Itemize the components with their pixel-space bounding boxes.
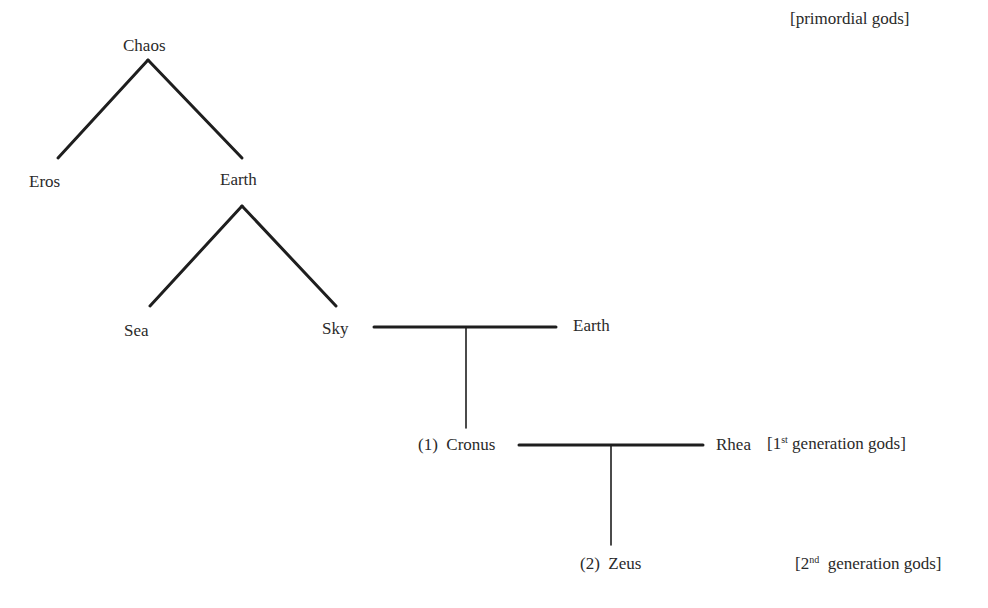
node-cronus: (1) Cronus xyxy=(418,435,495,455)
zeus-name: Zeus xyxy=(608,554,641,573)
node-rhea: Rhea xyxy=(716,435,751,455)
edge-chaos-eros xyxy=(58,60,148,158)
second-gen-sup: nd xyxy=(809,554,819,565)
connector-lines xyxy=(0,0,988,608)
node-sky: Sky xyxy=(322,319,348,339)
annotation-second-generation: [2nd generation gods] xyxy=(795,554,941,574)
first-gen-rest: generation gods] xyxy=(788,434,906,453)
edge-earth-sky xyxy=(242,206,336,306)
first-gen-open: [1 xyxy=(767,434,781,453)
node-zeus: (2) Zeus xyxy=(580,554,641,574)
zeus-number: (2) xyxy=(580,554,600,573)
second-gen-rest: generation gods] xyxy=(819,554,941,573)
annotation-first-generation: [1st generation gods] xyxy=(767,434,906,454)
node-chaos: Chaos xyxy=(123,36,166,56)
node-eros: Eros xyxy=(29,172,60,192)
cronus-name: Cronus xyxy=(446,435,495,454)
node-earth-consort: Earth xyxy=(573,316,610,336)
annotation-primordial-gods: [primordial gods] xyxy=(790,9,909,29)
node-sea: Sea xyxy=(124,321,149,341)
first-gen-sup: st xyxy=(781,434,788,445)
edge-earth-sea xyxy=(150,206,242,306)
edge-chaos-earth xyxy=(148,60,242,158)
second-gen-open: [2 xyxy=(795,554,809,573)
node-earth-primordial: Earth xyxy=(220,170,257,190)
cronus-number: (1) xyxy=(418,435,438,454)
